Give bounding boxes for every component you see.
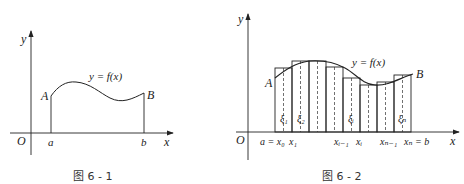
curve-label: y = f(x)	[351, 56, 385, 69]
point-b-label: B	[416, 67, 424, 81]
figure-caption: 图 6 - 1	[73, 170, 112, 183]
tick-a-label: a	[48, 136, 54, 148]
tick-label-xi: xᵢ	[355, 136, 362, 147]
riemann-sum-figures: O y x A B a b y = f(x) 图 6 - 1 O y x A B…	[0, 0, 464, 184]
figure-6-1: O y x A B a b y = f(x) 图 6 - 1	[10, 31, 173, 183]
point-a-label: A	[264, 76, 273, 90]
y-axis-label: y	[20, 32, 27, 46]
x-axis-label: x	[163, 135, 170, 149]
figure-6-2: O y x A B y = f(x) a = x₀ x₁ xᵢ₋₁ xᵢ xₙ₋…	[236, 12, 459, 183]
y-axis-label: y	[237, 12, 244, 26]
tick-b-label: b	[141, 136, 147, 148]
tick-label-xn: xₙ = b	[403, 136, 429, 147]
curve-label: y = f(x)	[88, 70, 122, 83]
xi-label-i: ξᵢ	[348, 113, 354, 125]
figure-caption: 图 6 - 2	[322, 170, 361, 183]
origin-label: O	[17, 134, 26, 148]
curve-f-x	[275, 61, 413, 85]
x-axis-label: x	[449, 134, 456, 148]
tick-label-x1: x₁	[288, 136, 297, 147]
tick-label-x0: a = x₀	[260, 136, 285, 147]
curve-f-x	[51, 82, 144, 101]
point-b-label: B	[147, 88, 155, 102]
xi-label-n: ξₙ	[398, 113, 406, 125]
xi-label-2: ξ₂	[297, 113, 305, 125]
origin-label: O	[236, 133, 245, 147]
xi-label-1: ξ₁	[280, 113, 288, 125]
point-a-label: A	[40, 89, 49, 103]
tick-label-xn-minus-1: xₙ₋₁	[379, 136, 397, 147]
tick-label-xi-minus-1: xᵢ₋₁	[333, 136, 349, 147]
riemann-rectangles	[275, 61, 411, 132]
